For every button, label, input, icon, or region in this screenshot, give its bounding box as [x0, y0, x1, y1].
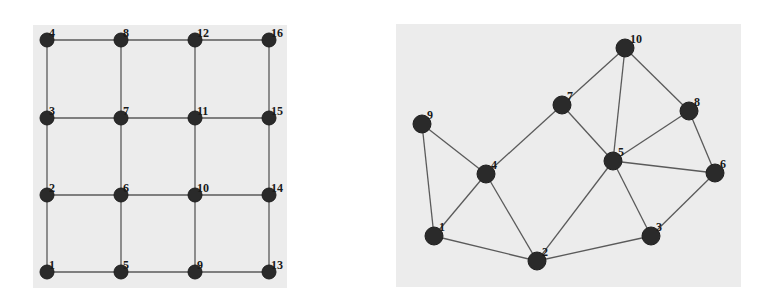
node-label-11: 11: [197, 104, 208, 118]
planar-graph-figure: 12345678910: [396, 24, 741, 287]
node-label-9: 9: [197, 258, 203, 272]
node-label-3: 3: [49, 104, 55, 118]
node-label-15: 15: [271, 104, 283, 118]
node-label-1: 1: [49, 258, 55, 272]
node-label-4: 4: [491, 158, 497, 172]
node-label-5: 5: [123, 258, 129, 272]
node-label-1: 1: [439, 220, 445, 234]
node-label-6: 6: [720, 157, 726, 171]
node-label-16: 16: [271, 26, 283, 40]
node-label-13: 13: [271, 258, 283, 272]
node-label-4: 4: [49, 26, 55, 40]
node-label-2: 2: [49, 181, 55, 195]
node-label-6: 6: [123, 181, 129, 195]
grid-graph-panel: [33, 25, 287, 288]
figure-canvas: 12345678910111213141516 12345678910: [0, 0, 779, 299]
node-label-12: 12: [197, 26, 209, 40]
node-label-5: 5: [618, 145, 624, 159]
node-label-8: 8: [123, 26, 129, 40]
node-label-9: 9: [427, 108, 433, 122]
node-label-10: 10: [630, 32, 642, 46]
node-label-7: 7: [567, 89, 573, 103]
node-label-10: 10: [197, 181, 209, 195]
node-label-8: 8: [694, 95, 700, 109]
grid-graph-figure: 12345678910111213141516: [33, 25, 287, 288]
node-label-2: 2: [542, 245, 548, 259]
planar-graph-panel: [396, 24, 741, 287]
node-label-14: 14: [271, 181, 283, 195]
node-label-3: 3: [656, 220, 662, 234]
node-label-7: 7: [123, 104, 129, 118]
